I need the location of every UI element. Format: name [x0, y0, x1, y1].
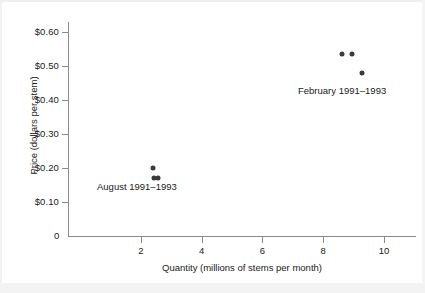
y-tick-label: $0.50 — [35, 60, 59, 71]
x-tick-mark — [262, 237, 263, 243]
y-tick-label: $0.20 — [35, 162, 59, 173]
x-tick-label: 10 — [379, 245, 390, 256]
y-tick-mark — [62, 134, 69, 135]
scan-edge-left — [0, 0, 2, 293]
data-point — [150, 166, 155, 171]
x-axis-title: Quantity (millions of stems per month) — [68, 262, 416, 273]
x-tick-label: 2 — [138, 245, 143, 256]
x-tick-label: 8 — [321, 245, 326, 256]
x-axis-line — [68, 236, 416, 237]
y-tick-label: $0.10 — [35, 196, 59, 207]
y-axis-line — [68, 22, 69, 237]
data-point — [359, 71, 364, 76]
x-tick-label: 4 — [199, 245, 204, 256]
data-point — [152, 175, 157, 180]
data-point — [155, 176, 160, 181]
x-tick-mark — [323, 237, 324, 243]
x-tick-mark — [202, 237, 203, 243]
y-tick-label: $0.40 — [35, 94, 59, 105]
scan-edge-bottom — [0, 283, 425, 293]
x-tick-label: 6 — [260, 245, 265, 256]
y-tick-label: $0.30 — [35, 128, 59, 139]
series-annotation-label: August 1991–1993 — [97, 181, 177, 192]
scan-edge-top — [0, 0, 425, 2]
y-tick-label: $0.60 — [35, 26, 59, 37]
data-point — [340, 51, 345, 56]
origin-tick-label: 0 — [54, 230, 59, 241]
y-tick-mark — [62, 66, 69, 67]
y-tick-mark — [62, 202, 69, 203]
data-point — [350, 51, 355, 56]
y-tick-mark — [62, 32, 69, 33]
plot-area — [0, 0, 425, 293]
series-annotation-label: February 1991–1993 — [298, 85, 386, 96]
x-tick-mark — [384, 237, 385, 243]
x-tick-mark — [141, 237, 142, 243]
y-tick-mark — [62, 168, 69, 169]
scatter-chart-figure: 0 Price (dollars per stem) Quantity (mil… — [0, 0, 425, 293]
y-tick-mark — [62, 100, 69, 101]
